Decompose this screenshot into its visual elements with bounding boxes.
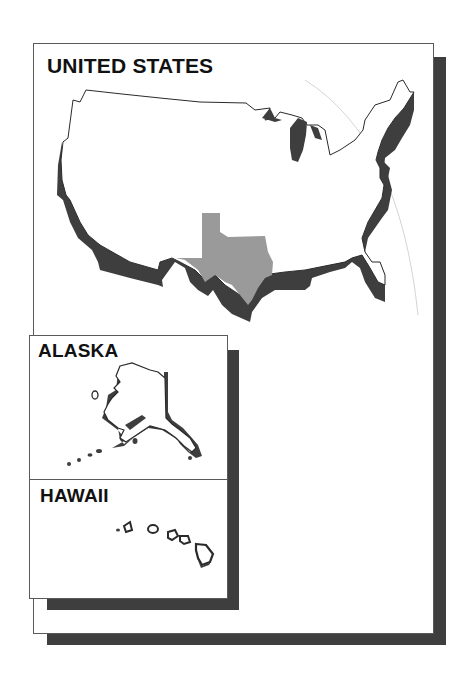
inset-maps: [0, 0, 470, 679]
alaska-land-icon: [104, 363, 196, 452]
alaska-island-icon: [88, 453, 93, 457]
hawaii-oahu-icon: [148, 525, 158, 533]
hawaii-kauai-icon: [124, 522, 132, 532]
alaska-island-icon: [92, 391, 98, 399]
alaska-island-icon: [96, 449, 102, 453]
alaska-island-icon: [188, 456, 192, 460]
hawaii-niihau-icon: [116, 529, 120, 532]
alaska-island-icon: [67, 462, 71, 466]
hawaii-maui-icon: [180, 536, 190, 544]
hawaii-molokai-icon: [168, 530, 178, 540]
alaska-island-icon: [133, 438, 138, 444]
alaska-island-icon: [77, 458, 81, 462]
